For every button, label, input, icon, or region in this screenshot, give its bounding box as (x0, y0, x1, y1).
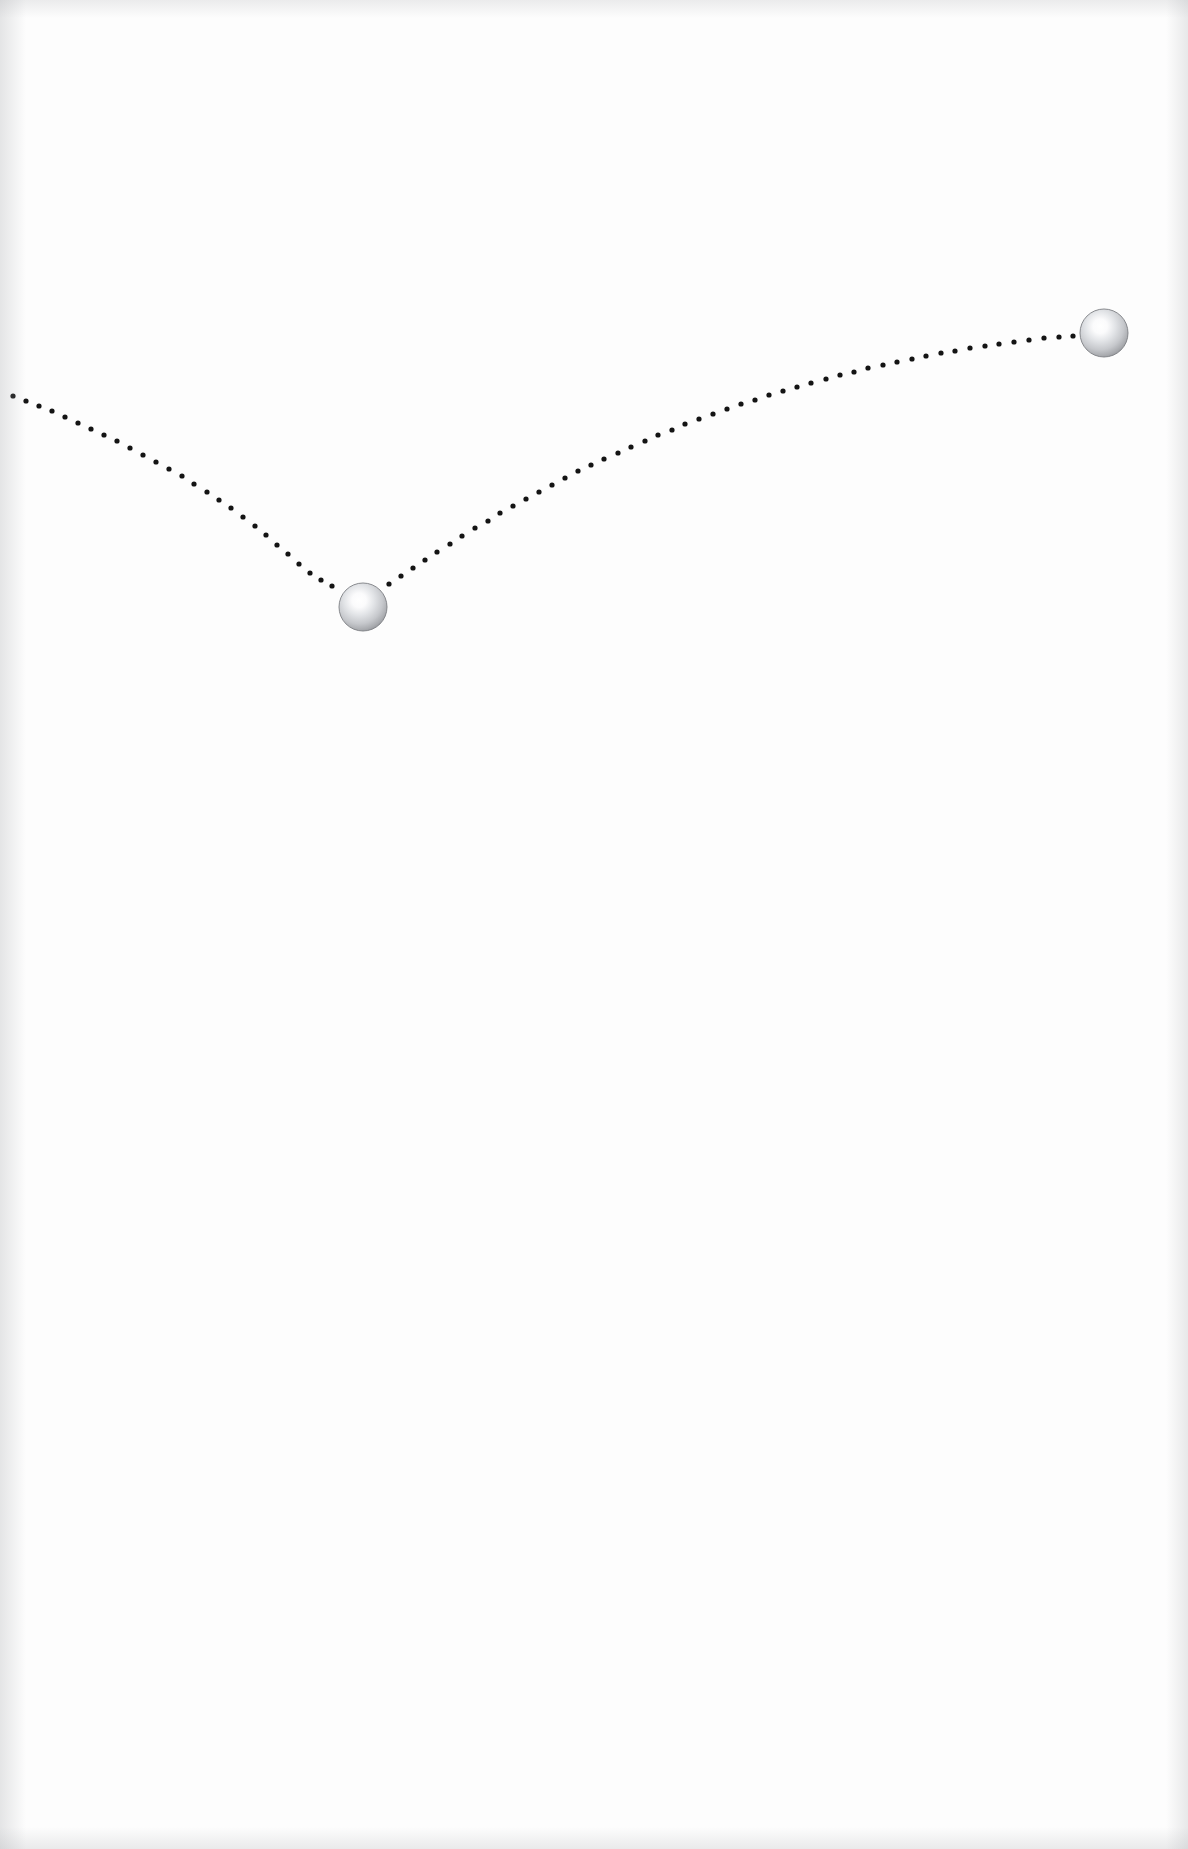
path-dot (88, 426, 93, 431)
path-dot (823, 376, 828, 381)
path-dot (724, 406, 729, 411)
path-dot (127, 445, 132, 450)
path-dot (682, 421, 687, 426)
path-dot (485, 518, 490, 523)
path-dot (894, 359, 899, 364)
path-dot (865, 365, 870, 370)
path-dot (510, 503, 515, 508)
path-dot (938, 350, 943, 355)
path-dot (1056, 334, 1061, 339)
path-dot (752, 397, 757, 402)
path-dot (307, 570, 312, 575)
path-dot (62, 414, 67, 419)
path-dot (10, 393, 15, 398)
path-dot (434, 549, 439, 554)
path-dot (318, 577, 323, 582)
path-dot (75, 420, 80, 425)
path-dot (766, 392, 771, 397)
path-dot (996, 341, 1001, 346)
path-dot (166, 466, 171, 471)
path-dot (696, 416, 701, 421)
path-dot (952, 348, 957, 353)
trajectory-diagram (0, 0, 1188, 1849)
path-dot (459, 533, 464, 538)
path-dot (23, 398, 28, 403)
path-dot (923, 353, 928, 358)
path-dot (982, 343, 987, 348)
path-dot (642, 438, 647, 443)
figure-root (0, 0, 1188, 1849)
path-dot (655, 432, 660, 437)
path-dot (851, 369, 856, 374)
path-dot (1011, 339, 1016, 344)
path-dot (329, 583, 334, 588)
lower-sphere (339, 583, 387, 631)
path-dot (780, 388, 785, 393)
path-dot (447, 541, 452, 546)
path-dot (628, 444, 633, 449)
outgoing-dotted-path (386, 333, 1075, 586)
path-dot (710, 411, 715, 416)
path-dot (216, 497, 221, 502)
path-dot (114, 438, 119, 443)
path-dot (588, 462, 593, 467)
upper-sphere (1080, 309, 1128, 357)
path-dot (296, 561, 301, 566)
path-dot (523, 496, 528, 501)
path-dot (274, 542, 279, 547)
path-dot (228, 505, 233, 510)
path-dot (285, 551, 290, 556)
path-dot (808, 380, 813, 385)
path-dot (240, 514, 245, 519)
path-dot (49, 408, 54, 413)
path-dot (204, 489, 209, 494)
path-dot (615, 450, 620, 455)
incoming-dotted-path (10, 393, 334, 588)
path-dot (1041, 335, 1046, 340)
path-dot (140, 452, 145, 457)
path-dot (880, 362, 885, 367)
path-dot (1026, 337, 1031, 342)
path-dot (153, 459, 158, 464)
path-dot (1070, 333, 1075, 338)
path-dot (252, 523, 257, 528)
path-dot (101, 432, 106, 437)
path-dot (497, 510, 502, 515)
path-dot (536, 489, 541, 494)
path-dot (410, 565, 415, 570)
path-dot (422, 557, 427, 562)
path-dot (575, 468, 580, 473)
path-dot (837, 372, 842, 377)
path-dot (601, 456, 606, 461)
path-dot (738, 401, 743, 406)
path-dot (179, 473, 184, 478)
path-dot (263, 532, 268, 537)
path-dot (794, 384, 799, 389)
path-dot (909, 356, 914, 361)
path-dot (669, 427, 674, 432)
path-dot (191, 481, 196, 486)
path-dot (967, 345, 972, 350)
path-dot (472, 525, 477, 530)
path-dot (36, 403, 41, 408)
path-dot (386, 581, 391, 586)
sphere-group (339, 309, 1128, 631)
path-dot (562, 475, 567, 480)
path-dot (549, 482, 554, 487)
path-dot (398, 573, 403, 578)
